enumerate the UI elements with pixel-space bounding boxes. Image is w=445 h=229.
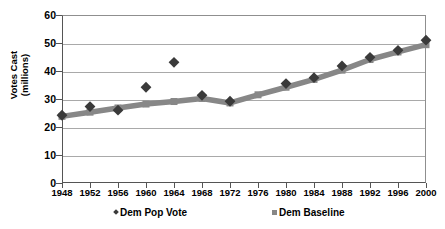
- data-point-diamond: [169, 57, 180, 68]
- y-axis-tick-label: 60: [8, 10, 56, 20]
- y-axis-tick-label: 30: [8, 94, 56, 104]
- x-axis-tick-mark: [118, 183, 119, 188]
- y-axis-tick-label: 10: [8, 150, 56, 160]
- data-point-diamond: [57, 110, 68, 121]
- x-axis-tick-mark: [174, 183, 175, 188]
- legend-label-dem-baseline: Dem Baseline: [279, 207, 345, 218]
- x-axis-tick-mark: [314, 183, 315, 188]
- x-axis-tick-mark: [286, 183, 287, 188]
- x-axis-tick-mark: [230, 183, 231, 188]
- x-axis-tick-mark: [398, 183, 399, 188]
- x-axis-tick-mark: [202, 183, 203, 188]
- square-marker-icon: [272, 210, 277, 215]
- legend-label-dem-pop-vote: Dem Pop Vote: [120, 207, 187, 218]
- x-axis-tick-mark: [146, 183, 147, 188]
- x-axis-tick-mark: [370, 183, 371, 188]
- y-axis-tick-label: 40: [8, 66, 56, 76]
- x-axis-tick-mark: [90, 183, 91, 188]
- x-axis-tick-label: 2000: [406, 187, 445, 198]
- data-point-square: [255, 91, 262, 98]
- data-point-square: [171, 98, 178, 105]
- data-series-layer: [62, 15, 426, 183]
- x-axis-tick-mark: [62, 183, 63, 188]
- data-point-diamond: [141, 82, 152, 93]
- diamond-marker-icon: [113, 210, 119, 216]
- legend-item-dem-baseline[interactable]: Dem Baseline: [272, 207, 345, 219]
- data-point-square: [143, 101, 150, 108]
- x-axis-tick-mark: [342, 183, 343, 188]
- x-axis-tick-mark: [426, 183, 427, 188]
- y-axis-tick-label: 20: [8, 122, 56, 132]
- y-axis-tick-label: 50: [8, 38, 56, 48]
- chart-legend: Dem Pop Vote Dem Baseline: [0, 205, 445, 223]
- x-axis-tick-mark: [258, 183, 259, 188]
- chart-container: Votes Cast (millions) 0102030405060 1948…: [0, 0, 445, 229]
- legend-item-dem-pop-vote[interactable]: Dem Pop Vote: [114, 207, 187, 219]
